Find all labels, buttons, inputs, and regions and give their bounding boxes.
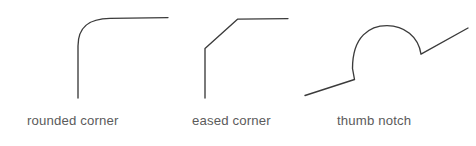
caption-row: rounded corner eased corner thumb notch	[0, 108, 476, 134]
caption-rounded-corner: rounded corner	[27, 108, 119, 134]
caption-thumb-notch: thumb notch	[337, 108, 411, 134]
corner-treatments-figure: rounded corner eased corner thumb notch	[0, 0, 476, 146]
caption-eased-corner: eased corner	[192, 108, 271, 134]
rounded-corner-profile-path	[78, 18, 168, 98]
thumb-notch-profile-path	[305, 26, 468, 96]
eased-corner-profile-path	[205, 19, 288, 98]
